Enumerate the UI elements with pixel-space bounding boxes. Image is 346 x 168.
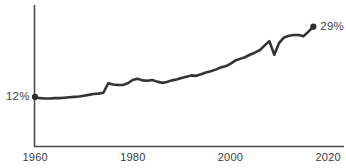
start-value-label: 12% <box>6 91 30 103</box>
x-tick-label-2000: 2000 <box>218 152 243 163</box>
series-line-value <box>35 27 313 99</box>
end-value-label: 29% <box>320 21 344 33</box>
end-point-marker <box>310 24 316 30</box>
x-tick-label-1980: 1980 <box>120 152 145 163</box>
start-point-marker <box>32 94 38 100</box>
x-tick-label-1960: 1960 <box>23 152 48 163</box>
chart-plot-area <box>0 0 346 168</box>
line-chart: 12% 29% 1960 1980 2000 2020 <box>0 0 346 168</box>
x-tick-label-2020: 2020 <box>316 152 341 163</box>
